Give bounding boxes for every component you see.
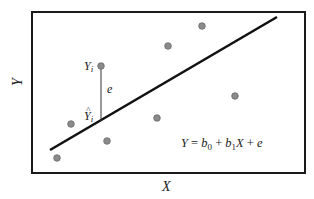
data-point-observed-yi: [98, 63, 105, 70]
regression-diagram: Yi e ^ Yi Y = b0 + b1X + e X Y: [0, 0, 314, 199]
regression-line: [50, 17, 277, 150]
data-point: [104, 138, 111, 145]
data-point: [154, 115, 161, 122]
x-axis-label: X: [161, 179, 171, 194]
y-axis-label: Y: [10, 76, 25, 86]
data-point: [68, 121, 75, 128]
data-point: [232, 93, 239, 100]
data-point: [165, 43, 172, 50]
data-points: [54, 23, 239, 162]
plot-frame: [32, 12, 305, 173]
data-point: [199, 23, 206, 30]
regression-equation: Y = b0 + b1X + e: [181, 136, 263, 152]
data-point: [54, 155, 61, 162]
fitted-yhat-label: Yi: [84, 109, 94, 124]
residual-e-label: e: [107, 82, 113, 96]
observed-yi-label: Yi: [84, 59, 94, 74]
